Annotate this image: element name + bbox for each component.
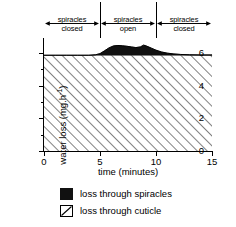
cuticle-loss-area: [44, 55, 212, 151]
y-tick-label: 4: [199, 81, 204, 91]
legend-swatch-hatched-icon: [60, 205, 73, 217]
legend-item-cuticle: loss through cuticle: [60, 202, 230, 219]
phase-region-spiracles-closed-1: spiracles closed: [44, 6, 100, 36]
phase-label-line2: closed: [61, 24, 82, 33]
y-tick-label: 0: [199, 146, 204, 156]
plot-area: 0246 051015 water loss (mg.h-1): [44, 43, 212, 151]
phase-label: spiracles open: [100, 16, 156, 33]
y-tick-minor: [41, 135, 44, 136]
phase-label-line2: open: [120, 24, 136, 33]
y-axis-title-close: ): [57, 86, 68, 89]
x-axis-line: [43, 151, 213, 152]
y-axis-title-text: water loss (mg.h: [57, 95, 68, 165]
phase-label-line2: closed: [173, 24, 194, 33]
legend-label: loss through cuticle: [80, 206, 161, 216]
legend-swatch-solid-icon: [60, 188, 73, 200]
phase-separator-line: [100, 2, 101, 38]
chart-legend: loss through spiracles loss through cuti…: [60, 185, 230, 219]
phase-separator-line: [156, 2, 157, 38]
y-axis-title-exponent: -1: [56, 89, 63, 95]
y-tick: [39, 53, 44, 54]
y-tick-minor: [41, 69, 44, 70]
phase-region-spiracles-open: spiracles open: [100, 6, 156, 36]
y-tick: [39, 86, 44, 87]
legend-label: loss through spiracles: [80, 189, 172, 199]
phase-annotation-band: spiracles closed spiracles open: [44, 6, 212, 36]
legend-item-spiracles: loss through spiracles: [60, 185, 230, 202]
y-tick: [39, 118, 44, 119]
phase-region-spiracles-closed-2: spiracles closed: [156, 6, 212, 36]
y-tick-minor: [41, 102, 44, 103]
chart-data-layer: [44, 38, 212, 151]
water-loss-chart: spiracles closed spiracles open: [0, 0, 236, 227]
x-axis-title: time (minutes): [44, 166, 212, 177]
y-tick-label: 6: [199, 48, 204, 58]
phase-label: spiracles closed: [156, 16, 212, 33]
y-tick-label: 2: [199, 113, 204, 123]
phase-label: spiracles closed: [44, 16, 100, 33]
